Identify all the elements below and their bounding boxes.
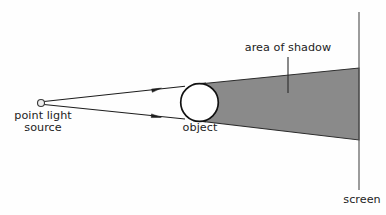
diagram-canvas: point light source object area of shadow… — [0, 0, 386, 215]
light-ray-upper — [44, 86, 185, 101]
object-label: object — [170, 122, 230, 134]
screen-label: screen — [338, 194, 386, 206]
shadow-formation-diagram — [0, 0, 386, 215]
object-circle — [181, 84, 219, 122]
light-ray-lower-arrowhead — [151, 114, 161, 118]
point-light-source-label: point light source — [0, 110, 86, 135]
point-light-source-icon — [38, 100, 45, 107]
area-of-shadow-label: area of shadow — [236, 42, 340, 54]
point-light-source-label-line2: source — [0, 122, 86, 134]
light-ray-upper-arrowhead — [152, 88, 162, 92]
